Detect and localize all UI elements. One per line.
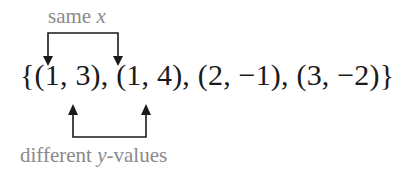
- values-text: -values: [107, 143, 168, 167]
- up-arrowhead-icon: [141, 104, 151, 115]
- different-text: different: [20, 143, 97, 167]
- y-variable: y: [97, 143, 106, 167]
- up-arrowhead-icon: [68, 104, 78, 115]
- different-y-values-label: different y-values: [20, 145, 167, 166]
- bottom-bracket-arrow-icon: [73, 112, 146, 137]
- top-bracket-arrow-icon: [48, 33, 118, 58]
- ordered-pair-set: {(1, 3), (1, 4), (2, −1), (3, −2)}: [20, 60, 394, 90]
